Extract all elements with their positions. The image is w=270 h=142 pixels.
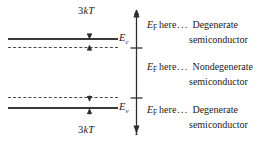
top-gap-T: T	[88, 5, 94, 16]
band-diagram-figure: Ec Ev 3kT 3kT	[0, 0, 270, 142]
conduction-band-edge-label: Ec	[119, 33, 129, 46]
note-mid-here: here	[157, 61, 176, 72]
note-bot-ef: EF	[147, 104, 157, 115]
bottom-gap-double-arrow	[84, 92, 95, 118]
bottom-gap-label-3kt: 3kT	[78, 125, 94, 136]
note-top-term-line1: Degenerate	[189, 19, 238, 30]
top-gap-double-arrow	[84, 30, 95, 54]
top-gap-label-3kt: 3kT	[78, 6, 94, 17]
note-top-ef: EF	[147, 19, 157, 30]
note-mid-ellipsis: ...	[176, 61, 189, 72]
valence-band-edge-label: Ev	[119, 102, 129, 115]
axis-arrowhead-top	[133, 10, 139, 18]
conduction-band-edge-line	[8, 38, 118, 40]
bottom-gap-T: T	[88, 124, 94, 135]
note-top-ellipsis: ...	[176, 19, 189, 30]
axis-arrowhead-bottom	[133, 126, 139, 134]
note-nondegenerate: EFhere...Nondegenerate semiconductor	[147, 61, 253, 89]
conduction-degeneracy-limit-line	[8, 47, 118, 48]
fermi-level-axis	[129, 8, 144, 135]
note-top-term-line2: semiconductor	[147, 34, 248, 46]
note-bot-ellipsis: ...	[176, 104, 189, 115]
note-mid-term-line2: semiconductor	[147, 76, 253, 88]
note-degenerate-lower: EFhere...Degenerate semiconductor	[147, 104, 248, 132]
valence-band-edge-line	[8, 107, 118, 109]
note-mid-term-line1: Nondegenerate	[189, 61, 253, 72]
note-degenerate-upper: EFhere...Degenerate semiconductor	[147, 19, 248, 47]
valence-degeneracy-limit-line	[8, 97, 118, 98]
note-mid-ef: EF	[147, 61, 157, 72]
note-bot-term-line1: Degenerate	[189, 104, 238, 115]
note-bot-term-line2: semiconductor	[147, 119, 248, 131]
note-top-here: here	[157, 19, 176, 30]
note-bot-here: here	[157, 104, 176, 115]
